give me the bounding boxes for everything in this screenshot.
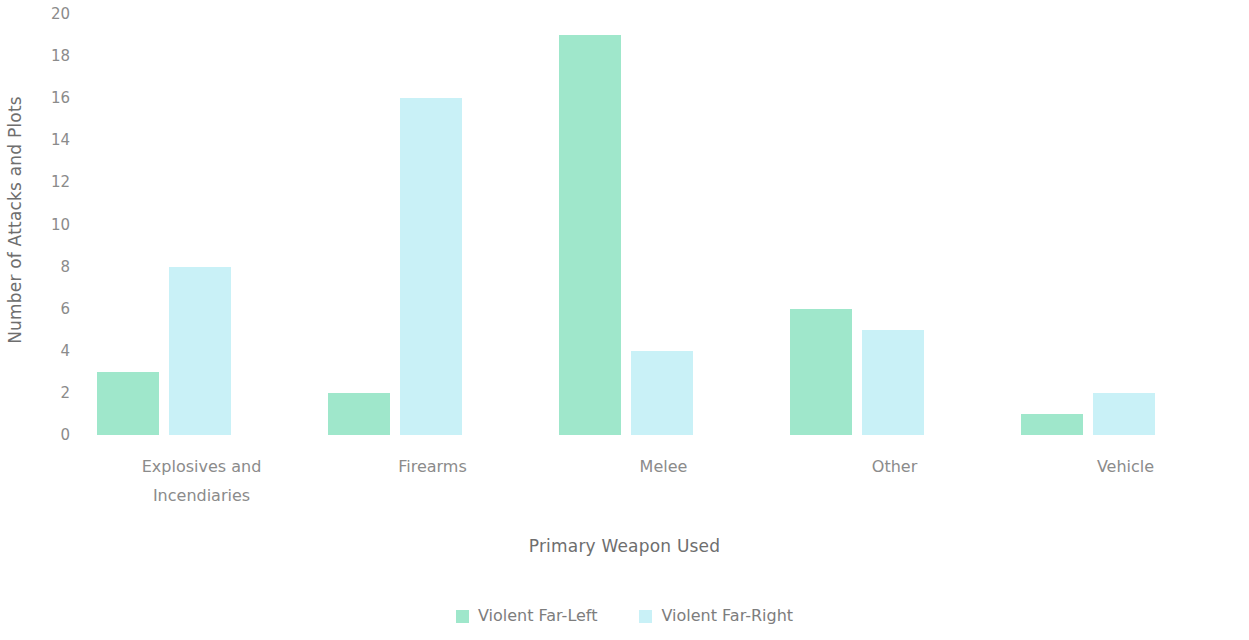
x-axis-title: Primary Weapon Used <box>0 536 1249 556</box>
bar[interactable] <box>169 267 231 435</box>
y-axis-tick: 14 <box>30 133 70 148</box>
bar[interactable] <box>400 98 462 435</box>
bar[interactable] <box>328 393 390 435</box>
y-axis-tick: 16 <box>30 91 70 106</box>
legend-swatch-icon <box>456 610 469 623</box>
bar-group <box>779 14 1010 435</box>
bar[interactable] <box>1021 414 1083 435</box>
bar[interactable] <box>559 35 621 435</box>
x-axis-tick: Vehicle <box>1010 452 1241 481</box>
y-axis-tick: 6 <box>30 301 70 316</box>
chart-legend: Violent Far-LeftViolent Far-Right <box>0 608 1249 624</box>
x-axis-tick-line1: Firearms <box>398 457 467 476</box>
plot-area <box>86 14 1241 435</box>
legend-swatch-icon <box>639 610 652 623</box>
y-axis-tick: 12 <box>30 175 70 190</box>
bar[interactable] <box>790 309 852 435</box>
bar[interactable] <box>862 330 924 435</box>
bar[interactable] <box>631 351 693 435</box>
x-axis-tick: Melee <box>548 452 779 481</box>
x-axis-tick-line1: Vehicle <box>1097 457 1154 476</box>
x-axis-tick-labels: Explosives andIncendiariesFirearmsMeleeO… <box>86 452 1241 522</box>
bar-group <box>317 14 548 435</box>
y-axis-tick: 20 <box>30 7 70 22</box>
x-axis-tick-line1: Other <box>872 457 917 476</box>
y-axis-tick: 4 <box>30 343 70 358</box>
y-axis-tick-labels: 20181614121086420 <box>30 0 70 460</box>
legend-label: Violent Far-Right <box>661 608 793 624</box>
bar-chart: Number of Attacks and Plots 201816141210… <box>0 0 1249 640</box>
legend-item[interactable]: Violent Far-Right <box>639 608 793 624</box>
legend-label: Violent Far-Left <box>478 608 598 624</box>
bar-group <box>1010 14 1241 435</box>
y-axis-tick: 18 <box>30 49 70 64</box>
x-axis-tick-line1: Explosives and <box>142 457 262 476</box>
bar-group <box>548 14 779 435</box>
y-axis-tick: 0 <box>30 428 70 443</box>
y-axis-tick: 8 <box>30 259 70 274</box>
bar[interactable] <box>97 372 159 435</box>
x-axis-tick: Firearms <box>317 452 548 481</box>
legend-item[interactable]: Violent Far-Left <box>456 608 598 624</box>
x-axis-tick: Explosives andIncendiaries <box>86 452 317 510</box>
x-axis-tick-line2: Incendiaries <box>86 481 317 510</box>
y-axis-title: Number of Attacks and Plots <box>0 0 30 440</box>
y-axis-tick: 2 <box>30 385 70 400</box>
bar-group <box>86 14 317 435</box>
x-axis-tick: Other <box>779 452 1010 481</box>
y-axis-tick: 10 <box>30 217 70 232</box>
x-axis-tick-line1: Melee <box>640 457 688 476</box>
bar[interactable] <box>1093 393 1155 435</box>
